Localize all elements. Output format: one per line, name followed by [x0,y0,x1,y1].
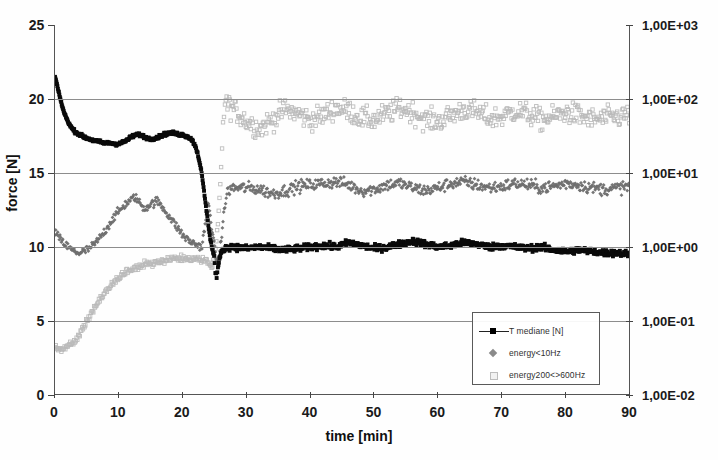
y-axis-left-tick-mark [48,173,54,174]
x-axis-tick-label: 50 [366,404,382,420]
legend-item-t-mediane: T mediane [N] [479,320,593,342]
gridline [55,247,629,248]
legend-marker-square-icon [479,325,509,337]
legend-label: energy<10Hz [509,348,561,358]
chart-legend: T mediane [N] energy<10Hz energy200<>600… [472,312,600,385]
x-axis-tick-mark [54,392,55,398]
legend-item-energy-lt-10hz: energy<10Hz [479,342,593,364]
legend-item-energy-200-600hz: energy200<>600Hz [479,364,593,386]
x-axis-tick-label: 90 [621,404,637,420]
x-axis-tick-label: 20 [174,404,190,420]
y-axis-right-tick-mark [626,247,633,248]
y-axis-left-tick-mark [48,99,54,100]
gridline [55,99,629,100]
y-axis-left-tick-mark [48,25,54,26]
legend-label: T mediane [N] [509,326,564,336]
y-axis-right-tick-mark [626,25,633,26]
y-axis-right-tick-mark [626,173,633,174]
legend-marker-diamond-icon [479,347,509,359]
x-axis-tick-label: 30 [238,404,254,420]
x-axis-tick-label: 10 [110,404,126,420]
y-axis-right-tick-label: 1,00E+00 [642,240,698,255]
y-axis-right-tick-label: 1,00E-02 [642,388,695,403]
y-axis-right-tick-label: 1,00E+01 [642,166,698,181]
x-axis-label: time [min] [0,428,718,444]
y-axis-left-tick-mark [48,247,54,248]
x-axis-tick-label: 70 [493,404,509,420]
y-axis-label: force [N] [4,123,20,243]
x-axis-tick-mark [310,392,311,398]
right-axis-line [629,25,630,395]
y-axis-left-tick-label: 20 [29,91,44,107]
y-axis-left-tick-label: 15 [29,165,44,181]
y-axis-left-tick-label: 5 [36,313,44,329]
y-axis-right-tick-label: 1,00E+02 [642,92,698,107]
x-axis-tick-label: 40 [302,404,318,420]
x-axis-tick-label: 0 [50,404,58,420]
y-axis-left-tick-label: 10 [29,239,44,255]
x-axis-tick-mark [182,392,183,398]
legend-marker-square-open-icon [479,369,509,381]
x-axis-tick-mark [373,392,374,398]
chart-figure: force [N] 0510152025 1,00E+031,00E+021,0… [0,0,718,460]
legend-label: energy200<>600Hz [509,370,585,380]
y-axis-left-tick-mark [48,321,54,322]
x-axis-tick-mark [118,392,119,398]
x-axis-tick-mark [437,392,438,398]
y-axis-right-tick-label: 1,00E+03 [642,18,698,33]
x-axis-tick-mark [246,392,247,398]
x-axis-tick-mark [501,392,502,398]
gridline [55,173,629,174]
y-axis-right-tick-mark [626,99,633,100]
x-axis-tick-mark [629,392,630,398]
y-axis-right-tick-label: 1,00E-01 [642,314,695,329]
y-axis-left-tick-label: 25 [29,17,44,33]
y-axis-left-tick-label: 0 [36,387,44,403]
series-points [55,175,629,270]
y-axis-right-tick-mark [626,321,633,322]
x-axis-tick-label: 80 [557,404,573,420]
x-axis-tick-mark [565,392,566,398]
x-axis-tick-label: 60 [430,404,446,420]
